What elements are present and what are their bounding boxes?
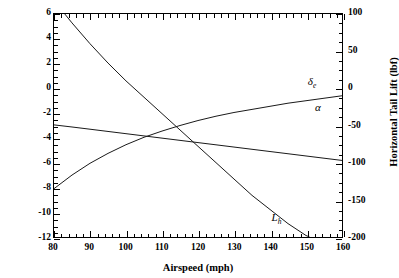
x-tick-major-top — [90, 14, 91, 20]
x-tick-minor-bottom — [337, 234, 338, 238]
x-tick-minor-bottom — [221, 234, 222, 238]
x-tick-label: 120 — [178, 243, 218, 253]
y-tick-major-left — [54, 139, 60, 140]
x-tick-minor-bottom — [98, 234, 99, 238]
y-tick-minor-right — [339, 155, 343, 156]
y-tick-minor-left — [54, 152, 58, 153]
y-tick-minor-right — [339, 108, 343, 109]
x-tick-minor-bottom — [134, 234, 135, 238]
y-tick-minor-left — [54, 45, 58, 46]
x-tick-label: 110 — [142, 243, 182, 253]
y-tick-label-left: 0 — [5, 83, 51, 93]
y-tick-minor-right — [339, 145, 343, 146]
y-tick-minor-left — [54, 145, 58, 146]
y-tick-minor-left — [54, 177, 58, 178]
y-tick-minor-right — [339, 117, 343, 118]
x-tick-minor-top — [170, 14, 171, 18]
x-tick-minor-bottom — [250, 234, 251, 238]
x-tick-minor-top — [112, 14, 113, 18]
y-tick-minor-right — [339, 211, 343, 212]
x-tick-minor-top — [250, 14, 251, 18]
x-tick-minor-bottom — [105, 234, 106, 238]
y-tick-minor-right — [339, 33, 343, 34]
x-tick-minor-top — [257, 14, 258, 18]
x-tick-label: 150 — [287, 243, 327, 253]
y-tick-label-right: -200 — [348, 233, 394, 243]
y-tick-major-left — [54, 214, 60, 215]
y-tick-minor-left — [54, 52, 58, 53]
x-tick-label: 140 — [251, 243, 291, 253]
x-tick-minor-bottom — [76, 234, 77, 238]
y-tick-minor-right — [339, 173, 343, 174]
curve-label-delta_e: δe — [308, 76, 316, 90]
x-tick-minor-top — [105, 14, 106, 18]
x-tick-minor-bottom — [279, 234, 280, 238]
x-tick-major-top — [199, 14, 200, 20]
x-tick-minor-top — [69, 14, 70, 18]
curve-layer — [54, 14, 342, 237]
y-tick-minor-left — [54, 202, 58, 203]
y-tick-minor-left — [54, 108, 58, 109]
x-tick-minor-top — [83, 14, 84, 18]
x-tick-label: 100 — [106, 243, 146, 253]
x-tick-minor-top — [243, 14, 244, 18]
x-tick-minor-top — [228, 14, 229, 18]
y-tick-label-left: 6 — [5, 8, 51, 18]
y-tick-minor-right — [339, 230, 343, 231]
x-tick-minor-bottom — [315, 234, 316, 238]
x-tick-major-bottom — [90, 231, 91, 237]
y-tick-minor-right — [339, 220, 343, 221]
y-tick-major-left — [54, 64, 60, 65]
y-tick-label-left: -10 — [5, 208, 51, 218]
x-tick-minor-bottom — [301, 234, 302, 238]
x-tick-minor-top — [264, 14, 265, 18]
y-tick-major-left — [54, 89, 60, 90]
x-tick-minor-bottom — [286, 234, 287, 238]
plot-area: αδeLh — [53, 13, 343, 238]
y-tick-minor-left — [54, 102, 58, 103]
x-tick-minor-bottom — [170, 234, 171, 238]
x-tick-major-top — [344, 14, 345, 20]
x-tick-major-bottom — [54, 231, 55, 237]
x-tick-minor-bottom — [148, 234, 149, 238]
y-tick-major-left — [54, 164, 60, 165]
y-tick-minor-left — [54, 77, 58, 78]
y-tick-minor-left — [54, 120, 58, 121]
x-tick-minor-top — [322, 14, 323, 18]
y-tick-minor-right — [339, 80, 343, 81]
curve-label-alpha: α — [315, 102, 321, 113]
x-tick-label: 90 — [69, 243, 109, 253]
y-tick-minor-right — [339, 98, 343, 99]
x-tick-minor-top — [156, 14, 157, 18]
x-tick-minor-top — [315, 14, 316, 18]
x-tick-minor-top — [206, 14, 207, 18]
y-tick-minor-left — [54, 20, 58, 21]
y-tick-minor-left — [54, 227, 58, 228]
x-tick-major-top — [54, 14, 55, 20]
y-tick-major-right — [336, 164, 342, 165]
y-tick-minor-left — [54, 133, 58, 134]
x-tick-minor-top — [214, 14, 215, 18]
x-tick-minor-top — [286, 14, 287, 18]
x-tick-label: 130 — [214, 243, 254, 253]
x-tick-minor-bottom — [156, 234, 157, 238]
y-tick-major-left — [54, 189, 60, 190]
y-tick-minor-left — [54, 170, 58, 171]
x-tick-minor-top — [177, 14, 178, 18]
y-tick-major-right — [336, 89, 342, 90]
x-tick-minor-bottom — [330, 234, 331, 238]
x-tick-major-top — [127, 14, 128, 20]
y-tick-minor-left — [54, 127, 58, 128]
x-tick-label: 160 — [323, 243, 363, 253]
y-tick-label-right: 100 — [348, 8, 394, 18]
x-tick-minor-top — [279, 14, 280, 18]
x-tick-minor-bottom — [177, 234, 178, 238]
x-tick-major-top — [272, 14, 273, 20]
x-axis-title: Airspeed (mph) — [163, 262, 233, 273]
x-tick-minor-top — [221, 14, 222, 18]
curve-alpha — [54, 125, 342, 161]
y-tick-minor-right — [339, 192, 343, 193]
chart-figure: αδeLh -12-10-8-6-4-20246-200-150-100-500… — [0, 0, 399, 278]
x-tick-minor-top — [148, 14, 149, 18]
y-tick-label-left: -6 — [5, 158, 51, 168]
